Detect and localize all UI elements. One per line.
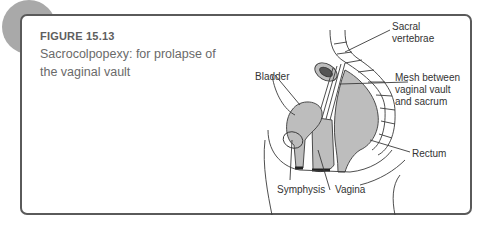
label-sacral-1: Sacral (392, 21, 420, 32)
label-mesh-3: and sacrum (395, 96, 447, 107)
label-mesh-2: vaginal vault (395, 84, 451, 95)
label-mesh-1: Mesh between (395, 72, 460, 83)
label-vagina: Vagina (335, 184, 366, 195)
anatomy-diagram: Sacral vertebrae Mesh between vaginal va… (0, 0, 487, 225)
label-rectum: Rectum (412, 148, 446, 159)
label-sacral-2: vertebrae (392, 33, 435, 44)
label-bladder: Bladder (255, 71, 290, 82)
label-symphysis: Symphysis (277, 184, 325, 195)
